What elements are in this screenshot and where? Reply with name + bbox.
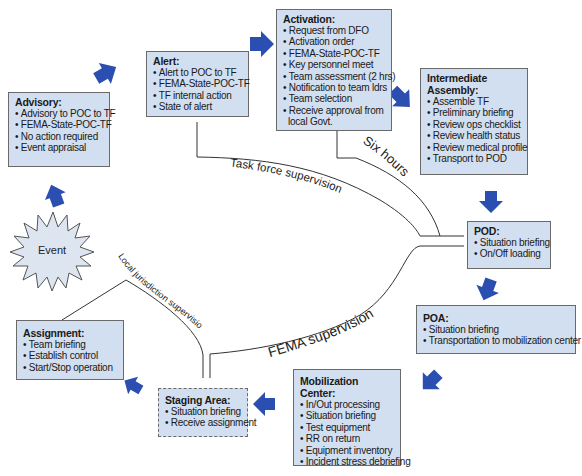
list-item-continuation: local Govt.	[283, 116, 385, 127]
arrow-pod-to-poa	[472, 275, 502, 304]
list-item: Receive assignment	[165, 417, 241, 428]
list-item: RR on return	[300, 433, 394, 444]
list-item: Review medical profile	[427, 142, 521, 153]
activation-title: Activation:	[283, 13, 385, 25]
list-item: Transportation to mobilization center	[423, 335, 569, 346]
list-item: In/Out processing	[300, 399, 394, 410]
list-item: Key personnel meet	[283, 59, 385, 70]
list-item: Start/Stop operation	[23, 362, 117, 373]
assignment-title: Assignment:	[23, 327, 117, 339]
list-item: Receive approval from	[283, 105, 385, 116]
assignment-box: Assignment: Team briefing Establish cont…	[16, 320, 124, 380]
list-item: Activation order	[283, 36, 385, 47]
list-item: Advisory to POC to TF	[15, 108, 103, 119]
arrow-poa-to-mobilization	[414, 365, 447, 398]
list-item: Alert to POC to TF	[153, 67, 242, 78]
alert-title: Alert:	[153, 55, 242, 67]
poa-box: POA: Situation briefing Transportation t…	[416, 305, 576, 354]
list-item: Establish control	[23, 350, 117, 361]
staging-area-title: Staging Area:	[165, 394, 241, 406]
list-item: Situation briefing	[300, 410, 394, 421]
list-item: TF internal action	[153, 90, 242, 101]
intermediate-assembly-box: Intermediate Assembly: Assemble TF Preli…	[420, 68, 528, 175]
mobilization-center-box: Mobilization Center: In/Out processing S…	[293, 369, 401, 466]
fema-supervision-label: FEMA supervision	[266, 305, 376, 360]
staging-area-box: Staging Area: Situation briefing Receive…	[158, 388, 248, 437]
list-item: Request from DFO	[283, 25, 385, 36]
list-item: Preliminary briefing	[427, 107, 521, 118]
list-item: State of alert	[153, 101, 242, 112]
list-item: Team selection	[283, 93, 385, 104]
pod-box: POD: Situation briefing On/Off loading	[467, 221, 551, 269]
list-item: No action required	[15, 131, 103, 142]
list-item: Equipment inventory	[300, 445, 394, 456]
list-item: Test equipment	[300, 422, 394, 433]
arrow-mobilization-to-staging	[253, 392, 275, 416]
poa-title: POA:	[423, 312, 569, 324]
intermediate-assembly-title-line2: Assembly:	[427, 84, 521, 96]
list-item: FEMA-State-POC-TF	[283, 48, 385, 59]
list-item: Assemble TF	[427, 96, 521, 107]
list-item: FEMA-State-POC-TF	[15, 119, 103, 130]
list-item: Transport to POD	[427, 153, 521, 164]
intermediate-assembly-title-line1: Intermediate	[427, 72, 521, 84]
list-item: On/Off loading	[474, 248, 544, 259]
list-item: Team briefing	[23, 339, 117, 350]
list-item: Notification to team ldrs	[283, 82, 385, 93]
arrow-intermediate-to-pod	[479, 191, 503, 213]
list-item: Situation briefing	[165, 406, 241, 417]
list-item: Review health status	[427, 130, 521, 141]
arrow-event-to-advisory	[41, 181, 69, 209]
list-item: Incident stress debriefing	[300, 456, 394, 467]
list-item: FEMA-State-POC-TF	[153, 78, 242, 89]
list-item: Event appraisal	[15, 142, 103, 153]
alert-box: Alert: Alert to POC to TF FEMA-State-POC…	[146, 51, 249, 117]
list-item: Team assessment (2 hrs)	[283, 71, 385, 82]
advisory-title: Advisory:	[15, 96, 103, 108]
arrow-advisory-to-alert	[90, 57, 122, 89]
list-item: Situation briefing	[474, 237, 544, 248]
pod-title: POD:	[474, 225, 544, 237]
arrow-alert-to-activation	[250, 31, 274, 57]
activation-box: Activation: Request from DFO Activation …	[276, 9, 392, 131]
event-label: Event	[38, 244, 66, 256]
list-item: Situation briefing	[423, 324, 569, 335]
list-item: Review ops checklist	[427, 119, 521, 130]
advisory-box: Advisory: Advisory to POC to TF FEMA-Sta…	[8, 92, 110, 167]
mobilization-center-title: Mobilization Center:	[300, 375, 394, 399]
